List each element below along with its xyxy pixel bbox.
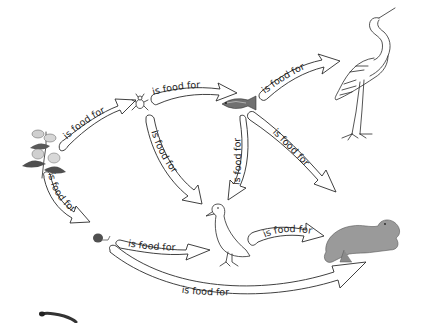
snail-organism	[93, 234, 110, 243]
label-fish-duck: is food for	[231, 137, 243, 185]
arrow-insect-to-fish: is food for	[151, 79, 237, 105]
arrow-fish-to-otter: is food for	[247, 111, 336, 192]
arrow-duck-to-otter: is food for	[248, 223, 324, 245]
plant-organism	[22, 130, 66, 178]
food-web-diagram: is food for is food for is food for is f…	[0, 0, 423, 323]
otter-organism	[324, 220, 399, 262]
arrow-insect-to-duck: is food for	[146, 115, 202, 204]
label-fish-heron: is food for	[259, 61, 306, 96]
arrow-plant-to-snail: is food for	[44, 172, 90, 223]
fish-organism	[222, 96, 256, 110]
arrow-fish-to-duck: is food for	[228, 115, 248, 200]
heron-organism	[335, 8, 395, 140]
label-fish-otter: is food for	[271, 126, 312, 168]
duck-organism	[206, 204, 250, 266]
worm-organism	[39, 312, 76, 322]
arrow-fish-to-heron: is food for	[259, 54, 340, 100]
arrow-plant-to-insect: is food for	[59, 99, 136, 151]
label-plant-insect: is food for	[61, 104, 107, 141]
